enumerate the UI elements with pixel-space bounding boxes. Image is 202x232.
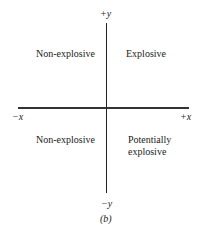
quadrant-top-right-label: Explosive [126,48,166,59]
quadrant-top-left-label: Non-explosive [36,48,95,59]
quadrant-bottom-right-line1: Potentially [128,134,171,146]
quadrant-bottom-left-label: Non-explosive [36,134,95,145]
x-axis-line [18,107,189,109]
y-axis-negative-label: −y [101,199,112,209]
y-positive-text: +y [100,8,111,19]
quadrant-bottom-right-label: Potentially explosive [128,134,171,158]
y-axis-positive-label: +y [100,9,111,19]
x-axis-positive-label: +x [180,112,191,122]
x-axis-negative-label: −x [12,112,23,122]
figure-caption: (b) [100,214,112,224]
quadrant-bottom-right-line2: explosive [128,146,171,158]
